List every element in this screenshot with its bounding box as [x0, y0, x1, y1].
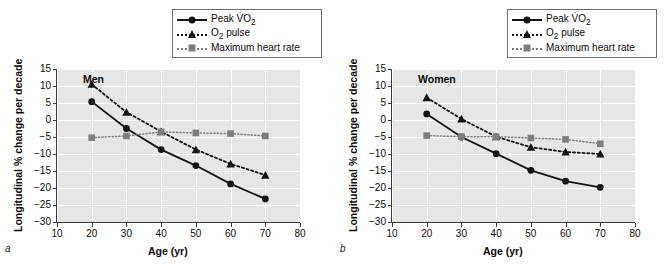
x-axis-tick-label: 40 [148, 229, 174, 239]
legend-label-o2-pulse: O2 pulse [211, 27, 250, 42]
legend-marker-max-heart-rate [177, 42, 207, 54]
gridline-vertical [300, 69, 301, 222]
legend-label-max-heart-rate: Maximum heart rate [211, 42, 300, 54]
series-line [427, 98, 601, 154]
x-axis-tick [566, 223, 567, 227]
y-axis-tick-label: −10 [25, 149, 51, 159]
triangle-icon [188, 30, 196, 38]
legend-panel-a: Peak V̇O2 O2 pulse Maximum heart rate [172, 9, 322, 58]
data-point-circle [527, 167, 534, 174]
x-axis-tick [461, 223, 462, 227]
y-axis-tick-label: 5 [360, 98, 386, 108]
data-point-square [123, 133, 130, 140]
legend-marker-o2-pulse [512, 28, 542, 40]
y-axis-tick-label: −20 [360, 183, 386, 193]
legend-panel-b: Peak V̇O2 O2 pulse Maximum heart rate [507, 9, 657, 58]
y-axis-title-b: Longitudinal % change per decade [347, 59, 359, 232]
data-point-square [493, 133, 500, 140]
x-axis-tick [392, 223, 393, 227]
plot-area-a [57, 69, 300, 222]
legend-marker-max-heart-rate [512, 42, 542, 54]
legend-item-peak-vo2: Peak V̇O2 [512, 13, 651, 27]
x-axis-tick-label: 50 [518, 229, 544, 239]
y-axis-tick-label: −25 [360, 200, 386, 210]
x-axis-tick-label: 30 [113, 229, 139, 239]
x-axis-line [392, 222, 635, 223]
x-axis-tick [231, 223, 232, 227]
y-axis-tick [53, 205, 57, 206]
panel-letter-b: b [340, 243, 346, 254]
y-axis-tick [53, 120, 57, 121]
y-axis-tick [388, 171, 392, 172]
y-axis-tick-label: 10 [360, 81, 386, 91]
y-axis-tick-label: 15 [360, 64, 386, 74]
data-point-circle [262, 195, 269, 202]
group-label-men: Men [83, 73, 104, 85]
legend-label-peak-vo2: Peak V̇O2 [546, 13, 591, 28]
x-axis-tick-label: 10 [44, 229, 70, 239]
data-point-circle [423, 110, 430, 117]
y-axis-tick-label: −30 [360, 217, 386, 227]
data-point-square [193, 130, 200, 137]
y-axis-tick [388, 205, 392, 206]
y-axis-tick [53, 188, 57, 189]
y-axis-tick [53, 69, 57, 70]
x-axis-tick-label: 10 [379, 229, 405, 239]
data-layer [57, 69, 300, 222]
x-axis-tick [496, 223, 497, 227]
y-axis-tick-label: −5 [25, 132, 51, 142]
circle-icon [524, 17, 531, 24]
data-point-triangle [457, 115, 465, 123]
y-axis-tick-label: −15 [360, 166, 386, 176]
square-icon [524, 45, 531, 52]
series-line [92, 84, 266, 175]
x-axis-tick-label: 30 [448, 229, 474, 239]
gridline-vertical [635, 69, 636, 222]
x-axis-tick [161, 223, 162, 227]
data-point-square [227, 130, 234, 137]
x-axis-tick-label: 80 [287, 229, 313, 239]
triangle-icon [523, 30, 531, 38]
x-axis-tick-label: 70 [587, 229, 613, 239]
legend-label-max-heart-rate: Maximum heart rate [546, 42, 635, 54]
y-axis-tick-label: −30 [25, 217, 51, 227]
data-point-square [528, 135, 535, 142]
y-axis-tick-label: 10 [25, 81, 51, 91]
data-point-circle [123, 125, 130, 132]
y-axis-tick [53, 103, 57, 104]
data-point-square [597, 141, 604, 148]
y-axis-tick [53, 154, 57, 155]
plot-area-b [392, 69, 635, 222]
data-point-circle [562, 178, 569, 185]
x-axis-line [57, 222, 300, 223]
x-axis-tick [600, 223, 601, 227]
series-line [427, 114, 601, 187]
y-axis-tick [388, 86, 392, 87]
x-axis-tick [196, 223, 197, 227]
x-axis-tick [635, 223, 636, 227]
y-axis-tick [388, 103, 392, 104]
series-square [88, 129, 268, 141]
legend-marker-peak-vo2 [512, 14, 542, 26]
x-axis-tick-label: 20 [79, 229, 105, 239]
series-triangle [423, 93, 605, 157]
y-axis-tick [388, 137, 392, 138]
data-point-circle [192, 162, 199, 169]
y-axis-line [56, 69, 57, 222]
series-line [92, 132, 266, 138]
series-circle [423, 110, 603, 190]
y-axis-tick-label: −15 [25, 166, 51, 176]
x-axis-tick-label: 40 [483, 229, 509, 239]
x-axis-tick [126, 223, 127, 227]
series-square [423, 132, 603, 147]
y-axis-tick [388, 120, 392, 121]
x-axis-tick [57, 223, 58, 227]
panel-b-women: Peak V̇O2 O2 pulse Maximum heart rate Lo… [335, 0, 670, 269]
y-axis-tick [53, 171, 57, 172]
data-point-triangle [423, 93, 431, 101]
data-point-circle [227, 181, 234, 188]
x-axis-tick [92, 223, 93, 227]
legend-item-o2-pulse: O2 pulse [512, 27, 651, 41]
legend-item-max-heart-rate: Maximum heart rate [512, 41, 651, 55]
data-point-triangle [192, 145, 200, 153]
